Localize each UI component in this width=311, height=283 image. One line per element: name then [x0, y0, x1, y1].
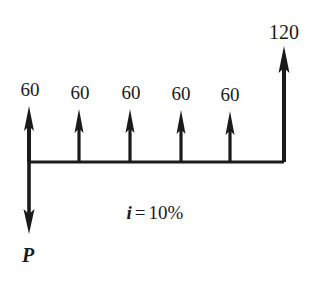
interest-rate-value: 10%	[149, 202, 184, 223]
inflow-arrow-4	[177, 110, 186, 162]
inflow-arrow-5	[226, 111, 235, 162]
present-value-label: P	[22, 245, 34, 265]
inflow-arrow-1	[24, 106, 34, 162]
inflow-arrow-2	[75, 109, 84, 162]
inflow-label-2: 60	[71, 83, 90, 102]
interest-rate-label: i=10%	[127, 203, 184, 222]
cash-flow-drawing	[0, 0, 311, 283]
final-inflow-arrow	[279, 46, 290, 162]
inflow-label-3: 60	[122, 83, 141, 102]
final-inflow-label: 120	[269, 22, 299, 42]
inflow-arrow-3	[126, 109, 135, 162]
inflow-label-4: 60	[172, 84, 191, 103]
interest-rate-equals: =	[132, 202, 149, 223]
inflow-label-1: 60	[21, 80, 40, 99]
present-value-arrow	[24, 162, 35, 234]
inflow-label-5: 60	[221, 85, 240, 104]
cash-flow-diagram: 60 60 60 60 60 120 P i=10%	[0, 0, 311, 283]
